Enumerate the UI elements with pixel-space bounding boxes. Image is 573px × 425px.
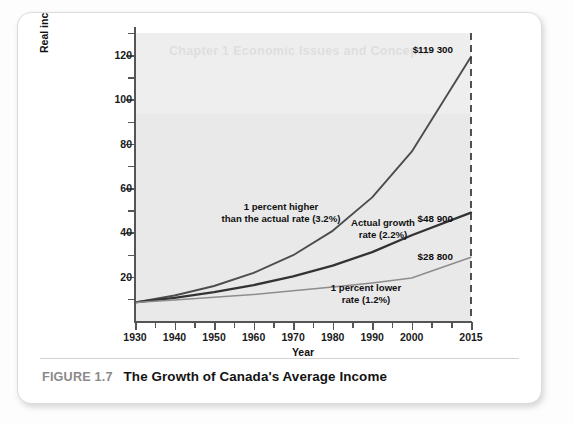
x-tick-major-1970: [293, 322, 295, 330]
x-tick-label: 1980: [311, 331, 355, 343]
x-tick-minor-1955: [234, 322, 235, 328]
y-tick-minor-70: [128, 166, 134, 167]
caption-divider: [40, 358, 519, 359]
x-tick-major-1940: [175, 322, 177, 330]
end-label-low: $28 800: [353, 251, 453, 262]
y-tick-major-60: 60: [126, 188, 135, 190]
y-tick-major-20: 20: [126, 277, 135, 279]
series-line-1: [135, 57, 471, 303]
y-tick-label: 60: [92, 182, 132, 194]
x-tick-major-1930: [135, 322, 137, 330]
y-tick-minor-130: [128, 33, 134, 34]
x-tick-major-1980: [333, 322, 335, 330]
x-tick-major-2015: [471, 322, 473, 330]
figure-caption: FIGURE 1.7 The Growth of Canada's Averag…: [42, 369, 512, 384]
x-tick-label: 2000: [390, 331, 434, 343]
figure-card: Chapter 1 Economic Issues and Concepts 1…: [17, 12, 542, 404]
y-tick-major-120: 120: [126, 55, 135, 57]
y-tick-label: 20: [92, 271, 132, 283]
x-tick-label: 2015: [449, 331, 493, 343]
y-tick-label: 120: [92, 49, 132, 61]
figure-page: Chapter 1 Economic Issues and Concepts 1…: [0, 0, 573, 425]
x-tick-major-2000: [412, 322, 414, 330]
x-tick-minor-1965: [273, 322, 274, 328]
x-tick-minor-2010: [451, 322, 452, 328]
x-tick-label: 1990: [350, 331, 394, 343]
y-tick-label: 80: [92, 138, 132, 150]
x-axis-title: Year: [135, 346, 471, 358]
x-tick-minor-1945: [194, 322, 195, 328]
x-tick-minor-1975: [313, 322, 314, 328]
x-axis-line: [134, 321, 472, 323]
x-tick-minor-1995: [392, 322, 393, 328]
chart-curves: [135, 33, 471, 321]
figure-title: The Growth of Canada's Average Income: [124, 369, 387, 384]
x-tick-label: 1940: [153, 331, 197, 343]
y-tick-minor-10: [128, 299, 134, 300]
y-axis-line: [134, 27, 136, 323]
y-tick-minor-110: [128, 77, 134, 78]
plot-background: Chapter 1 Economic Issues and Concepts 1…: [135, 33, 471, 321]
x-tick-major-1990: [372, 322, 374, 330]
y-tick-label: 40: [92, 226, 132, 238]
annotation-lower-rate: 1 percent lower rate (1.2%): [311, 282, 421, 305]
figure-number: FIGURE 1.7: [42, 370, 113, 384]
y-tick-major-40: 40: [126, 232, 135, 234]
y-tick-major-100: 100: [126, 99, 135, 101]
y-tick-major-80: 80: [126, 144, 135, 146]
y-tick-minor-30: [128, 255, 134, 256]
y-tick-minor-50: [128, 210, 134, 211]
x-tick-minor-1985: [352, 322, 353, 328]
x-tick-minor-2005: [431, 322, 432, 328]
end-label-high: $119 300: [353, 44, 453, 55]
x-tick-label: 1930: [113, 331, 157, 343]
x-tick-minor-1935: [155, 322, 156, 328]
y-axis-title: Real income per capita ($thousands): [38, 12, 50, 53]
end-label-actual: $48 900: [353, 213, 453, 224]
x-tick-major-1950: [214, 322, 216, 330]
y-tick-label: 100: [92, 93, 132, 105]
x-tick-label: 1950: [192, 331, 236, 343]
x-tick-major-1960: [254, 322, 256, 330]
x-tick-label: 1960: [232, 331, 276, 343]
chart-area: Chapter 1 Economic Issues and Concepts 1…: [18, 13, 541, 351]
x-tick-label: 1970: [271, 331, 315, 343]
y-tick-minor-90: [128, 122, 134, 123]
